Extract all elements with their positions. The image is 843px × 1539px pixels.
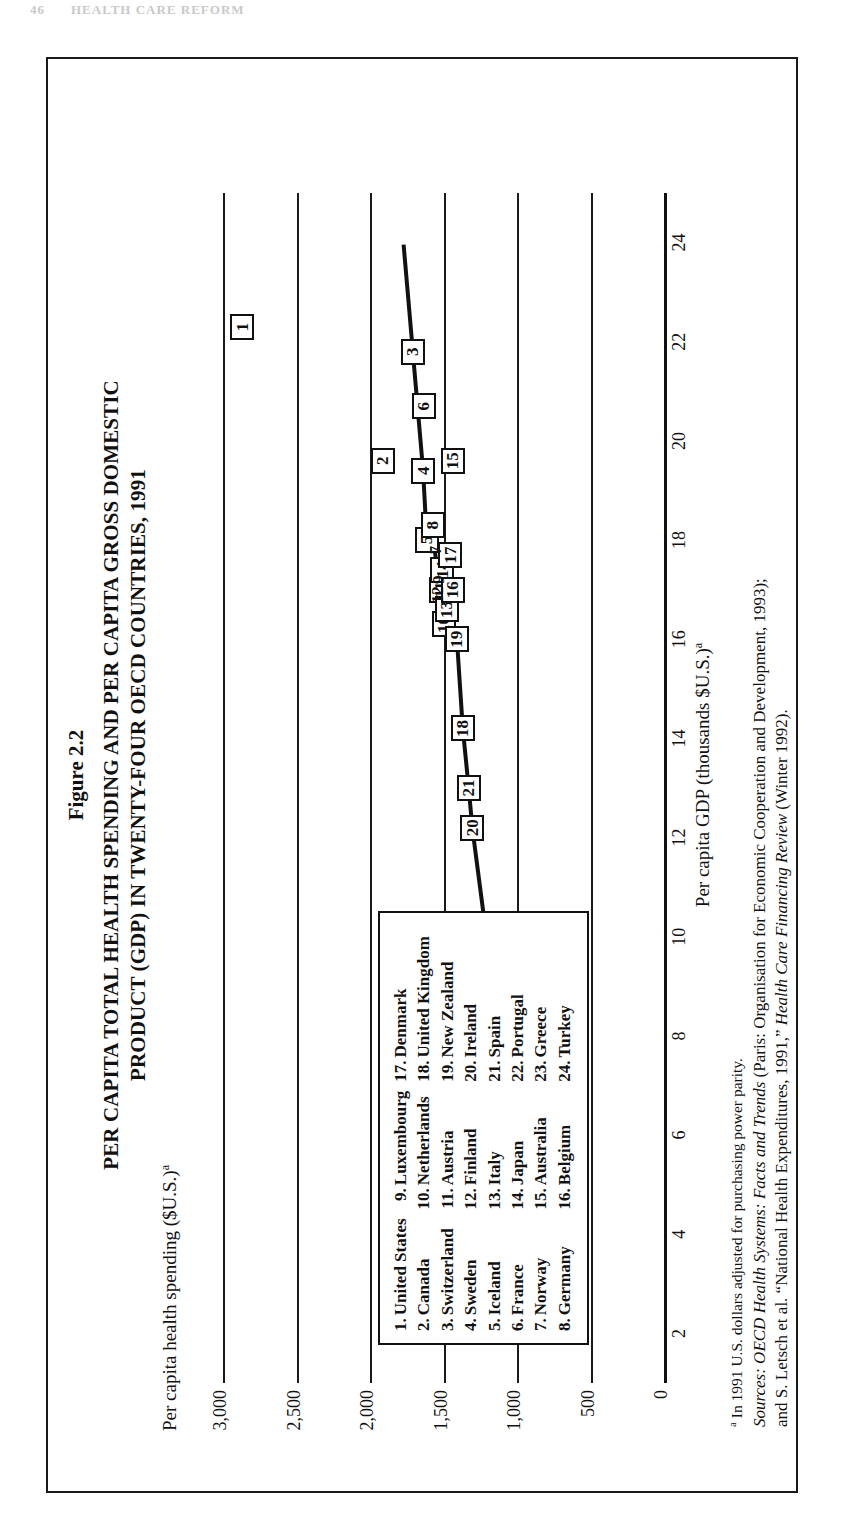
figure-title: PER CAPITA TOTAL HEALTH SPENDING AND PER… bbox=[98, 147, 152, 1403]
data-marker-norway[interactable]: 7 bbox=[426, 546, 443, 555]
legend-country-sweden: Sweden bbox=[460, 1209, 483, 1315]
figure-title-line-1: PER CAPITA TOTAL HEALTH SPENDING AND PER… bbox=[99, 380, 123, 1169]
y-axis-title-text: Per capita health spending ($U.S.) bbox=[159, 1170, 180, 1431]
legend-country-denmark: Denmark bbox=[390, 927, 413, 1057]
data-marker-australia[interactable]: 15 bbox=[441, 448, 465, 474]
legend-number: 15. bbox=[530, 1185, 553, 1209]
figure-title-line-2: PRODUCT (GDP) IN TWENTY-FOUR OECD COUNTR… bbox=[126, 469, 150, 1081]
legend-country-belgium: Belgium bbox=[554, 1082, 577, 1185]
y-tick-label-2500: 2,500 bbox=[284, 1390, 305, 1431]
footnote-text: In 1991 U.S. dollars adjusted for purcha… bbox=[728, 1058, 745, 1418]
page-folio: 46 bbox=[30, 2, 45, 17]
x-tick-label-6: 6 bbox=[669, 1131, 690, 1140]
sources-rest-2: (Winter 1992). bbox=[772, 709, 791, 814]
legend-number: 22. bbox=[507, 1057, 530, 1081]
x-tick-label-2: 2 bbox=[669, 1329, 690, 1338]
legend-country-luxembourg: Luxembourg bbox=[390, 1082, 413, 1185]
legend-country-france: France bbox=[507, 1209, 530, 1315]
legend-country-finland: Finland bbox=[460, 1082, 483, 1185]
y-tick-label-0: 0 bbox=[651, 1390, 672, 1399]
data-marker-ireland[interactable]: 20 bbox=[460, 815, 484, 841]
legend-body: 1.United States9.Luxembourg17.Denmark2.C… bbox=[390, 927, 577, 1331]
legend-number: 12. bbox=[460, 1185, 483, 1209]
sources-label: Sources: bbox=[750, 1368, 769, 1427]
running-head: 46HEALTH CARE REFORM bbox=[30, 2, 430, 18]
y-axis-title: Per capita health spending ($U.S.)a bbox=[158, 1165, 181, 1431]
running-head-title: HEALTH CARE REFORM bbox=[71, 2, 245, 17]
x-tick-label-12: 12 bbox=[669, 829, 690, 847]
figure-number: Figure 2.2 bbox=[64, 57, 89, 1493]
legend-row: 5.Iceland13.Italy21.Spain bbox=[484, 927, 507, 1331]
x-tick-label-18: 18 bbox=[669, 531, 690, 549]
sources-rest-1: (Paris: Organisation for Economic Cooper… bbox=[750, 578, 769, 1081]
legend-country-new-zealand: New Zealand bbox=[437, 927, 460, 1057]
legend-number: 4. bbox=[460, 1315, 483, 1331]
gridline-2000 bbox=[370, 193, 372, 1383]
x-tick-label-8: 8 bbox=[669, 1031, 690, 1040]
legend-number: 8. bbox=[554, 1315, 577, 1331]
data-marker-united-kingdom[interactable]: 18 bbox=[451, 716, 475, 742]
data-marker-sweden[interactable]: 4 bbox=[411, 458, 435, 484]
legend-number: 9. bbox=[390, 1185, 413, 1209]
legend-country-spain: Spain bbox=[484, 927, 507, 1057]
legend-number: 10. bbox=[413, 1185, 436, 1209]
legend-number: 13. bbox=[484, 1185, 507, 1209]
x-axis-title-text: Per capita GDP (thousands $U.S.) bbox=[692, 648, 713, 907]
legend-number: 1. bbox=[390, 1315, 413, 1331]
gridline-3000 bbox=[223, 193, 225, 1383]
legend-number: 17. bbox=[390, 1057, 413, 1081]
data-marker-united-states[interactable]: 1 bbox=[230, 314, 254, 340]
figure-sources: Sources: OECD Health Systems: Facts and … bbox=[749, 97, 794, 1427]
legend-country-ireland: Ireland bbox=[460, 927, 483, 1057]
legend-country-switzerland: Switzerland bbox=[437, 1209, 460, 1315]
data-marker-new-zealand[interactable]: 19 bbox=[445, 626, 469, 652]
legend-country-portugal: Portugal bbox=[507, 927, 530, 1057]
x-tick-label-22: 22 bbox=[669, 333, 690, 351]
legend-country-greece: Greece bbox=[530, 927, 553, 1057]
gridline-500 bbox=[591, 193, 593, 1383]
legend-country-australia: Australia bbox=[530, 1082, 553, 1185]
legend-country-canada: Canada bbox=[413, 1209, 436, 1315]
data-marker-france[interactable]: 6 bbox=[412, 393, 436, 419]
legend-country-japan: Japan bbox=[507, 1082, 530, 1185]
legend-country-iceland: Iceland bbox=[484, 1209, 507, 1315]
legend-number: 21. bbox=[484, 1057, 507, 1081]
legend-row: 6.France14.Japan22.Portugal bbox=[507, 927, 530, 1331]
data-marker-spain[interactable]: 21 bbox=[457, 775, 481, 801]
legend-country-germany: Germany bbox=[554, 1209, 577, 1315]
y-tick-label-500: 500 bbox=[578, 1390, 599, 1417]
legend-number: 2. bbox=[413, 1315, 436, 1331]
data-marker-finland[interactable]: 12 bbox=[429, 586, 446, 603]
data-marker-canada[interactable]: 2 bbox=[371, 448, 395, 474]
gridline-2500 bbox=[297, 193, 299, 1383]
x-tick-label-16: 16 bbox=[669, 630, 690, 648]
y-tick-label-3000: 3,000 bbox=[211, 1390, 232, 1431]
legend-row: 1.United States9.Luxembourg17.Denmark bbox=[390, 927, 413, 1331]
legend-row: 2.Canada10.Netherlands18.United Kingdom bbox=[413, 927, 436, 1331]
x-axis-line bbox=[664, 193, 667, 1383]
legend-number: 14. bbox=[507, 1185, 530, 1209]
sources-title-1: OECD Health Systems: Facts and Trends bbox=[750, 1082, 769, 1364]
legend-number: 7. bbox=[530, 1315, 553, 1331]
legend-row: 7.Norway15.Australia23.Greece bbox=[530, 927, 553, 1331]
legend-number: 5. bbox=[484, 1315, 507, 1331]
y-tick-label-1500: 1,500 bbox=[431, 1390, 452, 1431]
x-tick-label-10: 10 bbox=[669, 928, 690, 946]
legend-country-united-states: United States bbox=[390, 1209, 413, 1315]
data-marker-switzerland[interactable]: 3 bbox=[401, 339, 425, 365]
legend-row: 8.Germany16.Belgium24.Turkey bbox=[554, 927, 577, 1331]
legend-country-austria: Austria bbox=[437, 1082, 460, 1185]
legend-number: 24. bbox=[554, 1057, 577, 1081]
sources-title-2: Health Care Financing Review bbox=[772, 814, 791, 1025]
legend-number: 11. bbox=[437, 1185, 460, 1209]
legend-table: 1.United States9.Luxembourg17.Denmark2.C… bbox=[390, 927, 577, 1331]
x-tick-label-20: 20 bbox=[669, 432, 690, 450]
y-axis-note-marker: a bbox=[158, 1165, 172, 1170]
trend-extension bbox=[404, 245, 413, 352]
legend-number: 20. bbox=[460, 1057, 483, 1081]
data-marker-germany[interactable]: 8 bbox=[421, 512, 445, 538]
legend-number: 19. bbox=[437, 1057, 460, 1081]
legend-number: 6. bbox=[507, 1315, 530, 1331]
data-marker-luxembourg[interactable]: 9 bbox=[429, 576, 446, 585]
legend-number: 23. bbox=[530, 1057, 553, 1081]
